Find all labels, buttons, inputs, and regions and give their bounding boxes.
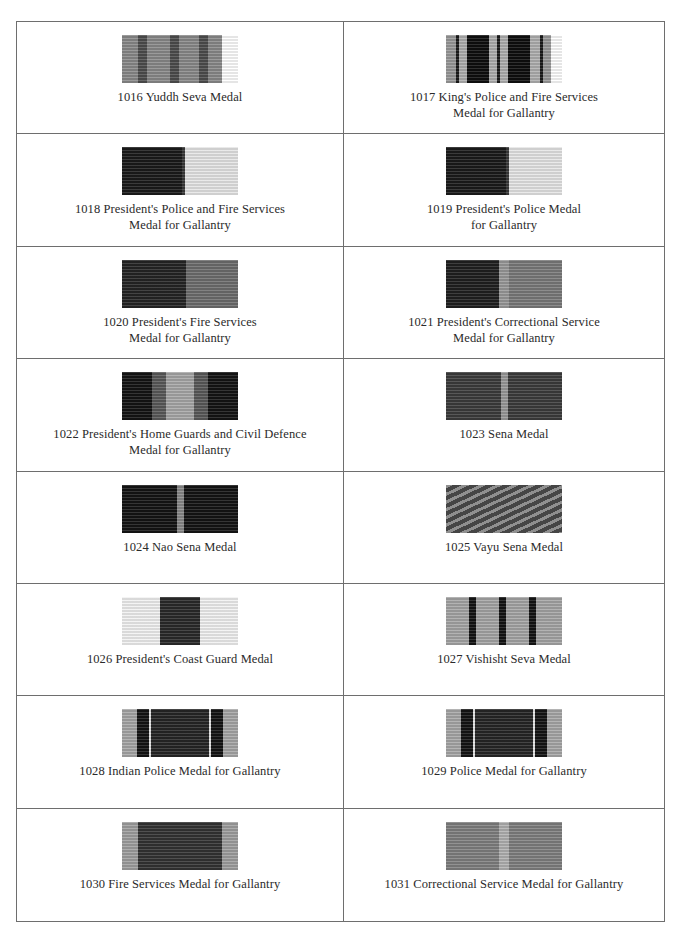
ribbon-stripe — [138, 35, 147, 83]
ribbon-stripe — [147, 35, 170, 83]
ribbon-1030 — [122, 822, 238, 870]
medal-cell-1016: 1016 Yuddh Seva Medal — [17, 22, 344, 134]
medal-cell-1020: 1020 President's Fire Services Medal for… — [17, 247, 344, 359]
medal-caption: 1021 President's Correctional Service Me… — [408, 314, 600, 346]
ribbon-stripe — [543, 35, 551, 83]
medal-cell-1029: 1029 Police Medal for Gallantry — [344, 696, 664, 808]
ribbon-stripe — [461, 709, 473, 757]
medal-cell-1022: 1022 President's Home Guards and Civil D… — [17, 359, 344, 471]
ribbon-stripe — [529, 597, 536, 645]
ribbon-stripe — [122, 709, 137, 757]
medal-caption: 1018 President's Police and Fire Service… — [75, 201, 285, 233]
ribbon-1029 — [446, 709, 562, 757]
ribbon-stripe — [170, 35, 179, 83]
ribbon-stripe — [547, 709, 562, 757]
medal-cell-1025: 1025 Vayu Sena Medal — [344, 472, 664, 584]
medal-caption: 1022 President's Home Guards and Civil D… — [53, 426, 306, 458]
medal-cell-1023: 1023 Sena Medal — [344, 359, 664, 471]
ribbon-stripe — [184, 485, 238, 533]
ribbon-stripe — [476, 597, 499, 645]
ribbon-stripe — [530, 35, 540, 83]
ribbon-stripe — [446, 260, 499, 308]
ribbon-1017 — [446, 35, 562, 83]
ribbon-stripe — [506, 597, 529, 645]
ribbon-stripe — [459, 35, 467, 83]
medal-cell-1027: 1027 Vishisht Seva Medal — [344, 584, 664, 696]
ribbon-1028 — [122, 709, 238, 757]
ribbon-stripe — [186, 260, 238, 308]
ribbon-1023 — [446, 372, 562, 420]
medal-caption: 1024 Nao Sena Medal — [123, 539, 236, 555]
medal-caption: 1031 Correctional Service Medal for Gall… — [385, 876, 624, 892]
ribbon-stripe — [469, 597, 476, 645]
ribbon-stripe — [475, 709, 533, 757]
ribbon-1019 — [446, 147, 562, 195]
ribbon-1022 — [122, 372, 238, 420]
medal-caption: 1030 Fire Services Medal for Gallantry — [80, 876, 281, 892]
ribbon-stripe — [536, 597, 562, 645]
medal-caption: 1017 King's Police and Fire Services Med… — [410, 89, 598, 121]
medal-caption: 1020 President's Fire Services Medal for… — [103, 314, 257, 346]
ribbon-stripe — [211, 709, 223, 757]
medal-cell-1026: 1026 President's Coast Guard Medal — [17, 584, 344, 696]
ribbon-1024 — [122, 485, 238, 533]
ribbon-stripe — [446, 372, 501, 420]
ribbon-stripe — [446, 709, 461, 757]
ribbon-stripe — [467, 35, 489, 83]
ribbon-stripe — [122, 485, 177, 533]
ribbon-stripe — [200, 597, 238, 645]
ribbon-stripe — [160, 597, 200, 645]
ribbon-stripe — [500, 35, 508, 83]
ribbon-stripe — [446, 147, 506, 195]
medal-caption: 1028 Indian Police Medal for Gallantry — [79, 763, 280, 779]
ribbon-stripe — [122, 372, 152, 420]
medal-cell-1017: 1017 King's Police and Fire Services Med… — [344, 22, 664, 134]
medal-caption: 1026 President's Coast Guard Medal — [87, 651, 273, 667]
ribbon-stripe — [446, 822, 499, 870]
ribbon-1026 — [122, 597, 238, 645]
medal-caption: 1019 President's Police Medal for Gallan… — [427, 201, 581, 233]
ribbon-stripe — [122, 822, 138, 870]
ribbon-stripe — [509, 822, 562, 870]
medal-cell-1018: 1018 President's Police and Fire Service… — [17, 134, 344, 246]
medal-caption: 1029 Police Medal for Gallantry — [421, 763, 587, 779]
ribbon-stripe — [194, 372, 208, 420]
ribbon-stripe — [535, 709, 547, 757]
ribbon-stripe — [151, 709, 209, 757]
ribbon-stripe — [208, 35, 222, 83]
medal-cell-1021: 1021 President's Correctional Service Me… — [344, 247, 664, 359]
ribbon-stripe — [501, 372, 508, 420]
ribbon-1018 — [122, 147, 238, 195]
ribbon-1021 — [446, 260, 562, 308]
ribbon-1031 — [446, 822, 562, 870]
ribbon-stripe — [499, 597, 506, 645]
ribbon-stripe — [122, 597, 160, 645]
ribbon-stripe — [509, 147, 562, 195]
ribbon-1025 — [446, 485, 562, 533]
ribbon-stripe — [489, 35, 497, 83]
ribbon-stripe — [446, 597, 469, 645]
ribbon-stripe — [185, 147, 238, 195]
ribbon-stripe — [499, 260, 509, 308]
ribbon-stripe — [508, 35, 530, 83]
ribbon-stripe — [137, 709, 149, 757]
ribbon-stripe — [122, 260, 186, 308]
medal-cell-1028: 1028 Indian Police Medal for Gallantry — [17, 696, 344, 808]
ribbon-stripe — [223, 709, 238, 757]
medal-caption: 1016 Yuddh Seva Medal — [118, 89, 243, 105]
ribbon-stripe — [138, 822, 222, 870]
ribbon-stripe — [508, 372, 562, 420]
medal-caption: 1025 Vayu Sena Medal — [445, 539, 563, 555]
ribbon-stripe — [222, 822, 238, 870]
ribbon-stripe — [199, 35, 208, 83]
ribbon-stripe — [499, 822, 509, 870]
ribbon-stripe — [166, 372, 194, 420]
medal-caption: 1023 Sena Medal — [460, 426, 549, 442]
medal-ribbon-table: 1016 Yuddh Seva Medal 1017 King's Police… — [16, 21, 665, 922]
medal-cell-1024: 1024 Nao Sena Medal — [17, 472, 344, 584]
medal-cell-1019: 1019 President's Police Medal for Gallan… — [344, 134, 664, 246]
ribbon-stripe — [509, 260, 562, 308]
ribbon-stripe — [177, 485, 184, 533]
medal-cell-1031: 1031 Correctional Service Medal for Gall… — [344, 809, 664, 921]
ribbon-stripe — [179, 35, 199, 83]
